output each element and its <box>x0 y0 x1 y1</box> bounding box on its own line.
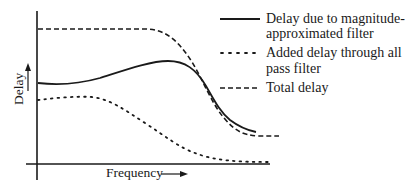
legend-item-dashed-line1: Total delay <box>266 80 328 96</box>
y-arrow-icon <box>25 63 31 71</box>
x-arrow-icon <box>180 171 188 177</box>
legend-item-dotted-line2: pass filter <box>266 61 321 77</box>
legend-item-dotted-line1: Added delay through all <box>266 45 402 61</box>
x-axis-label: Frequency <box>106 165 163 181</box>
allpass-added-delay-curve <box>38 97 268 162</box>
legend-item-solid-line1: Delay due to magnitude- <box>266 11 405 27</box>
legend-item-solid-line2: approximated filter <box>266 26 374 42</box>
y-axis-label: Delay <box>11 73 27 105</box>
